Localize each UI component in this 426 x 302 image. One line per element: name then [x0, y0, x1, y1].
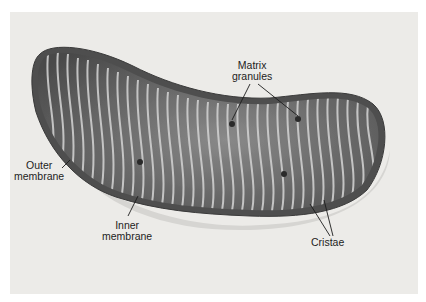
label-cristae: Cristae [311, 237, 344, 248]
label-outer-membrane: Outer membrane [14, 160, 64, 182]
matrix-granule [281, 171, 287, 177]
label-matrix-granules: Matrix granules [232, 60, 272, 82]
label-inner-membrane: Inner membrane [102, 220, 152, 242]
matrix-granule [137, 159, 143, 165]
matrix-granule [295, 116, 301, 122]
matrix-granule [229, 121, 235, 127]
mitochondrion-illustration [0, 0, 426, 302]
